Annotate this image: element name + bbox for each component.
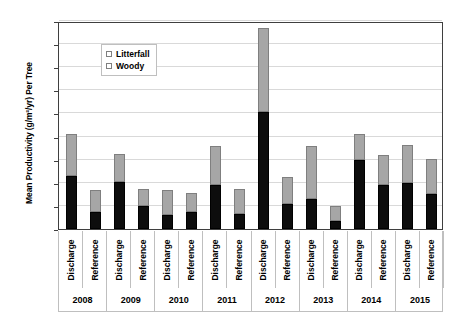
bar-2008-discharge [66, 134, 77, 229]
bar-2014-reference [378, 155, 389, 229]
x-category-label: Discharge [114, 239, 124, 280]
x-group-label-2011: 2011 [203, 288, 251, 312]
bar-segment-litterfall [234, 189, 245, 214]
bar-segment-woody [426, 194, 437, 229]
bar-segment-litterfall [330, 206, 341, 221]
x-category-label: Reference [138, 239, 148, 280]
bar-2015-reference [426, 159, 437, 229]
bar-segment-woody [114, 182, 125, 229]
x-category-label: Reference [186, 239, 196, 280]
bar-segment-litterfall [186, 193, 197, 211]
bar-segment-litterfall [210, 146, 221, 185]
x-group-label-2014: 2014 [348, 288, 396, 312]
gridline [59, 112, 442, 113]
x-axis-category-labels: DischargeReferenceDischargeReferenceDisc… [58, 231, 443, 288]
x-category-label: Discharge [258, 239, 268, 280]
x-category-label: Reference [378, 239, 388, 280]
bar-segment-woody [330, 221, 341, 229]
x-category-cell: Discharge [155, 231, 179, 288]
bar-segment-litterfall [354, 134, 365, 159]
bar-segment-woody [354, 160, 365, 229]
legend-label-litterfall: Litterfall [116, 48, 150, 60]
x-category-cell: Reference [131, 231, 155, 288]
x-group-label-2008: 2008 [59, 288, 107, 312]
bar-segment-woody [378, 185, 389, 229]
bar-2009-reference [138, 189, 149, 229]
x-group-label-2013: 2013 [300, 288, 348, 312]
bar-segment-woody [282, 204, 293, 229]
x-category-label: Reference [282, 239, 292, 280]
x-category-cell: Discharge [203, 231, 227, 288]
bar-segment-woody [90, 212, 101, 229]
bar-segment-litterfall [378, 155, 389, 185]
x-category-cell: Reference [420, 231, 444, 288]
bar-2008-reference [90, 190, 101, 229]
chart-container: Mean Productivity (g/m²/yr) Per Tree 020… [0, 0, 457, 326]
legend-item-woody: Woody [106, 60, 150, 72]
x-category-label: Discharge [306, 239, 316, 280]
bar-2010-reference [186, 193, 197, 229]
gridline [59, 20, 442, 21]
x-category-cell: Discharge [300, 231, 324, 288]
x-group-label-2012: 2012 [252, 288, 300, 312]
x-category-label: Discharge [402, 239, 412, 280]
x-category-label: Discharge [162, 239, 172, 280]
bar-segment-woody [258, 112, 269, 229]
chart-legend: Litterfall Woody [101, 44, 157, 76]
x-category-label: Discharge [66, 239, 76, 280]
bar-segment-litterfall [282, 177, 293, 204]
bar-2011-discharge [210, 146, 221, 229]
x-category-cell: Discharge [348, 231, 372, 288]
legend-item-litterfall: Litterfall [106, 48, 150, 60]
bar-segment-litterfall [402, 145, 413, 183]
x-category-cell: Reference [276, 231, 300, 288]
x-category-label: Discharge [354, 239, 364, 280]
bar-2015-discharge [402, 145, 413, 229]
bar-segment-woody [210, 185, 221, 229]
x-category-cell: Reference [83, 231, 107, 288]
bar-segment-litterfall [426, 159, 437, 195]
litterfall-swatch-icon [106, 51, 112, 57]
gridline [59, 89, 442, 90]
legend-label-woody: Woody [116, 60, 144, 72]
bar-segment-litterfall [90, 190, 101, 212]
bar-segment-woody [66, 176, 77, 229]
x-category-label: Reference [234, 239, 244, 280]
bar-2010-discharge [162, 190, 173, 229]
x-category-label: Reference [426, 239, 436, 280]
bar-2009-discharge [114, 154, 125, 229]
bar-segment-litterfall [138, 189, 149, 206]
bar-segment-litterfall [306, 146, 317, 199]
x-category-cell: Reference [372, 231, 396, 288]
bar-segment-woody [186, 212, 197, 229]
x-group-label-2015: 2015 [396, 288, 444, 312]
x-category-label: Reference [330, 239, 340, 280]
bar-2012-reference [282, 177, 293, 229]
bar-segment-woody [306, 199, 317, 229]
bar-segment-woody [402, 183, 413, 229]
x-category-cell: Discharge [396, 231, 420, 288]
bar-2013-discharge [306, 146, 317, 229]
x-category-label: Reference [90, 239, 100, 280]
x-category-cell: Reference [179, 231, 203, 288]
x-category-label: Discharge [210, 239, 220, 280]
bar-2011-reference [234, 189, 245, 229]
bar-segment-litterfall [162, 190, 173, 215]
bar-segment-litterfall [258, 28, 269, 112]
bar-segment-woody [138, 206, 149, 229]
bar-segment-litterfall [114, 154, 125, 182]
bar-segment-woody [162, 215, 173, 229]
x-category-cell: Reference [227, 231, 251, 288]
x-group-label-2009: 2009 [107, 288, 155, 312]
y-axis-title: Mean Productivity (g/m²/yr) Per Tree [24, 28, 34, 238]
woody-swatch-icon [106, 63, 112, 69]
x-group-label-2010: 2010 [155, 288, 203, 312]
bar-2014-discharge [354, 134, 365, 229]
bar-segment-woody [234, 214, 245, 229]
x-category-cell: Discharge [107, 231, 131, 288]
x-category-cell: Discharge [252, 231, 276, 288]
x-category-cell: Reference [324, 231, 348, 288]
gridline [59, 136, 442, 137]
bar-2013-reference [330, 206, 341, 229]
x-axis-group-labels: 20082009201020112012201320142015 [58, 288, 443, 312]
